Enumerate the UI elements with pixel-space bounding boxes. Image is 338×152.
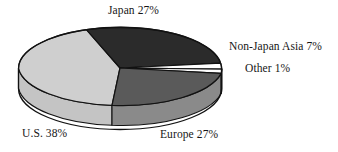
slice-label-us: U.S. 38% [22, 127, 67, 140]
pie-chart-figure: Japan 27% Non-Japan Asia 7% Other 1% Eur… [0, 0, 338, 152]
slice-label-europe: Europe 27% [160, 128, 218, 141]
slice-label-non-japan-asia: Non-Japan Asia 7% [229, 40, 322, 53]
slice-label-japan: Japan 27% [108, 4, 159, 17]
slice-label-other: Other 1% [245, 62, 290, 75]
